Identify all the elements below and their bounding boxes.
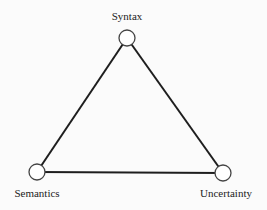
edge-syntax-uncertainty — [127, 38, 223, 173]
diagram-graphic — [0, 0, 267, 210]
triangle-diagram: Syntax Semantics Uncertainty — [0, 0, 267, 210]
node-semantics — [29, 164, 45, 180]
edge-syntax-semantics — [37, 38, 127, 172]
label-uncertainty: Uncertainty — [200, 187, 252, 199]
node-syntax — [119, 30, 135, 46]
edge-semantics-uncertainty — [37, 172, 223, 173]
label-semantics: Semantics — [14, 187, 59, 199]
label-syntax: Syntax — [112, 10, 143, 22]
node-uncertainty — [215, 165, 231, 181]
